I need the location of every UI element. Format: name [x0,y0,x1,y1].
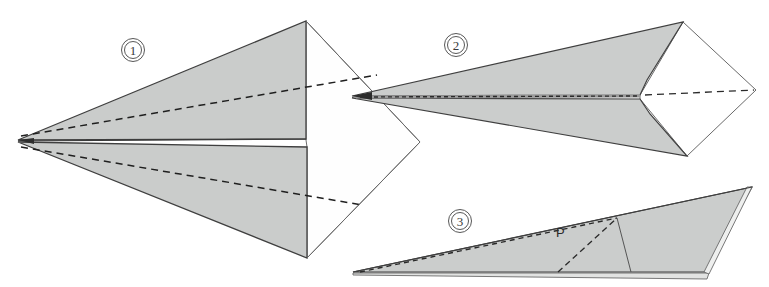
figure-sheet: 1 2 [0,0,769,287]
figure-1-group: 1 [18,21,420,258]
figure-1-upper-wing [18,21,306,140]
point-p-label: P [556,225,565,240]
step-1-number: 1 [130,43,137,58]
figure-2-upper-wing [352,22,683,96]
figure-3-group: P 3 [353,187,752,279]
paper-dart-diagram: 1 2 [0,0,769,287]
figure-3-underside-strip [353,273,709,279]
figure-1-rear-flap [306,21,420,258]
step-3-number: 3 [457,214,464,229]
figure-1-lower-wing [18,142,307,258]
step-2-number-badge: 2 [445,34,468,57]
step-2-number: 2 [453,38,460,53]
step-3-number-badge: 3 [449,210,472,233]
step-1-number-badge: 1 [122,39,145,62]
